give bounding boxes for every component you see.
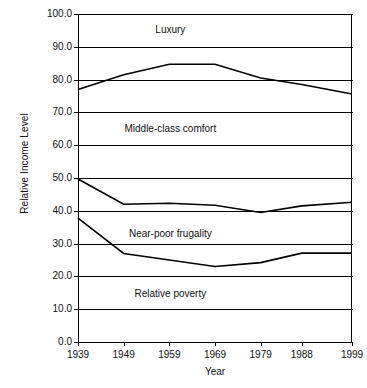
y-axis-tick-label: 70.0 [28,107,72,117]
gridline [79,14,353,15]
x-axis-tick-label: 1999 [330,349,367,360]
y-axis-tick-label: 10.0 [28,304,72,314]
plot-area: LuxuryMiddle-class comfortNear-poor frug… [78,14,352,342]
gridline [79,309,353,310]
y-axis-tick-label: 60.0 [28,140,72,150]
y-axis-tick-label: 20.0 [28,271,72,281]
gridline [79,178,353,179]
y-axis-tick-label: 40.0 [28,206,72,216]
region-label: Middle-class comfort [124,123,216,134]
x-axis-tick-mark [78,342,79,346]
y-axis-tick-label: 30.0 [28,239,72,249]
x-axis-tick-mark [261,342,262,346]
x-axis-tick-mark [215,342,216,346]
y-axis-tick-label: 50.0 [28,173,72,183]
gridline [79,112,353,113]
income-levels-line-chart: Relative Income Level Year 0.010.020.030… [0,0,367,388]
gridline [79,47,353,48]
region-label: Relative poverty [134,288,206,299]
x-axis-title: Year [78,366,352,377]
x-axis-tick-mark [302,342,303,346]
region-label: Near-poor frugality [129,228,212,239]
gridline [79,276,353,277]
y-axis-tick-label: 80.0 [28,75,72,85]
x-axis-tick-label: 1939 [56,349,100,360]
x-axis-tick-mark [352,342,353,346]
x-axis-tick-label: 1979 [239,349,283,360]
y-axis-tick-label: 100.0 [28,9,72,19]
y-axis-tick-label: 90.0 [28,42,72,52]
x-axis-tick-label: 1949 [102,349,146,360]
gridline [79,80,353,81]
x-axis-tick-label: 1988 [280,349,324,360]
gridline [79,244,353,245]
gridline [79,342,353,343]
x-axis-tick-mark [169,342,170,346]
y-axis-tick-label: 0.0 [28,337,72,347]
region-label: Luxury [155,24,185,35]
x-axis-tick-mark [124,342,125,346]
x-axis-tick-label: 1959 [147,349,191,360]
x-axis-tick-label: 1969 [193,349,237,360]
gridline [79,211,353,212]
gridline [79,145,353,146]
